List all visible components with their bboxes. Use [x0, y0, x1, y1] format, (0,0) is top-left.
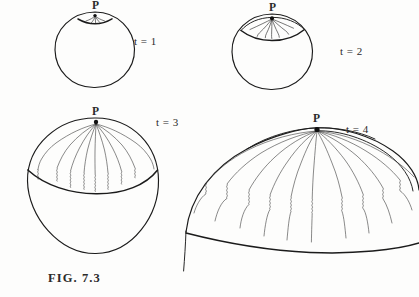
- time-label-t3: t = 3: [156, 116, 179, 128]
- dome-left-tail-t4: [184, 231, 186, 271]
- time-label-t2: t = 2: [340, 45, 363, 57]
- ray-group-t4: [194, 131, 414, 242]
- ray-group-t3: [38, 124, 154, 192]
- panel-t2: P t = 2: [232, 1, 363, 90]
- time-label-t1: t = 1: [134, 35, 157, 47]
- pole-label-t1: P: [92, 0, 99, 11]
- pole-dot-t1: [93, 14, 96, 17]
- pole-dot-t4: [314, 127, 319, 132]
- pole-dot-t2: [270, 16, 274, 20]
- panel-t3: P t = 3: [27, 105, 178, 254]
- cap-rim-t1: [78, 19, 112, 24]
- panel-t4: P t = 4: [184, 112, 419, 271]
- pole-dot-t3: [94, 120, 98, 124]
- sphere-outline-t2: [232, 14, 313, 90]
- dome-base-t4: [186, 233, 419, 253]
- figure-page: tion and radius of the universe. P t = 1: [0, 0, 419, 297]
- pole-label-t4: P: [313, 112, 320, 124]
- panel-t1: P t = 1: [55, 0, 157, 88]
- cap-rim-t3: [28, 170, 158, 194]
- time-label-t4: t = 4: [346, 123, 369, 135]
- figure-caption: FIG. 7.3: [48, 271, 101, 285]
- pole-label-t3: P: [92, 105, 99, 117]
- figure-canvas: P t = 1 P t = 2: [0, 0, 419, 297]
- pole-label-t2: P: [269, 1, 276, 13]
- cap-rim-t2: [241, 30, 305, 41]
- ray-group-t2: [250, 19, 294, 39]
